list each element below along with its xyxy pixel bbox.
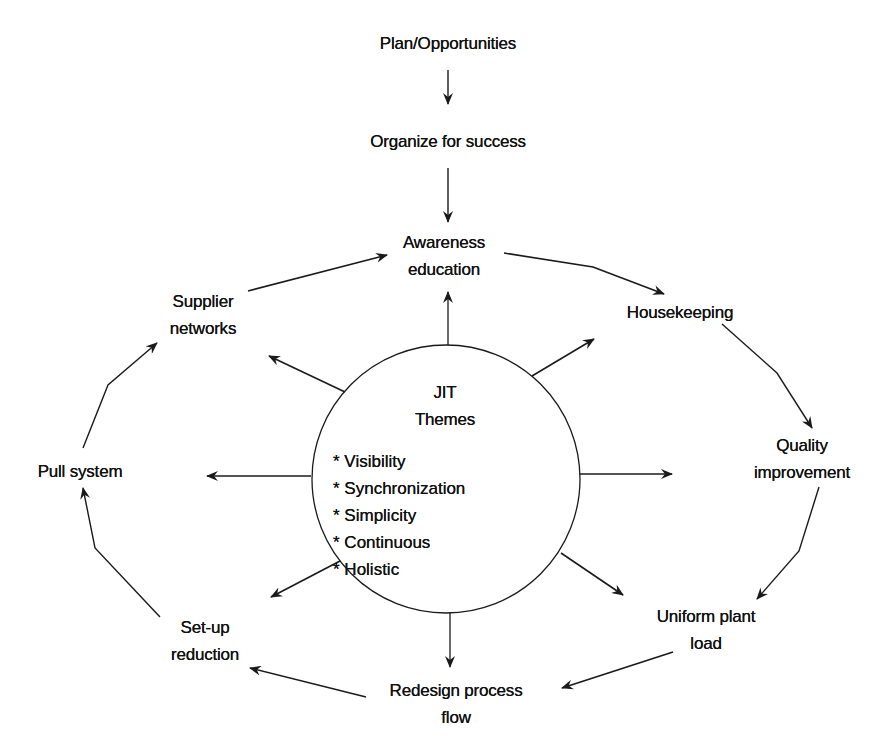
node-awareness-education: Awareness education — [403, 229, 485, 283]
cycle-arrow-awareness-to-housekeeping — [504, 253, 664, 294]
cycle-arrow-housekeeping-to-quality — [722, 324, 812, 428]
node-awareness-line2: education — [403, 256, 485, 283]
themes-list: * Visibility * Synchronization * Simplic… — [333, 448, 465, 583]
node-supplier-line1: Supplier — [170, 288, 236, 315]
theme-holistic: Holistic — [344, 560, 399, 579]
node-redesign-process-flow: Redesign process flow — [390, 677, 523, 731]
center-title-line2: Themes — [415, 406, 475, 433]
node-redesign-line2: flow — [390, 704, 523, 731]
theme-item: * Continuous — [333, 529, 465, 556]
radial-arrow-down-right — [561, 553, 623, 595]
node-quality-line2: improvement — [754, 459, 850, 486]
bullet-asterisk-icon: * — [333, 479, 340, 498]
node-organize-for-success: Organize for success — [370, 128, 526, 155]
cycle-arrow-supplier-to-awareness — [248, 255, 387, 291]
theme-continuous: Continuous — [344, 533, 430, 552]
node-housekeeping: Housekeeping — [627, 299, 733, 326]
node-supplier-networks: Supplier networks — [170, 288, 236, 342]
node-plan-opportunities-text: Plan/Opportunities — [380, 30, 516, 57]
bullet-asterisk-icon: * — [333, 506, 340, 525]
node-supplier-line2: networks — [170, 315, 236, 342]
radial-arrow-up-right — [532, 339, 594, 376]
node-quality-line1: Quality — [754, 432, 850, 459]
node-uniform-plant-load: Uniform plant load — [657, 603, 756, 657]
theme-visibility: Visibility — [344, 452, 405, 471]
bullet-asterisk-icon: * — [333, 452, 340, 471]
cycle-arrow-pull-to-supplier — [83, 343, 157, 448]
cycle-arrow-setup-to-pull — [83, 488, 160, 617]
bullet-asterisk-icon: * — [333, 533, 340, 552]
node-pull-line1: Pull system — [38, 458, 123, 485]
theme-item: * Synchronization — [333, 475, 465, 502]
bullet-asterisk-icon: * — [333, 560, 340, 579]
node-housekeeping-line1: Housekeeping — [627, 299, 733, 326]
node-awareness-line1: Awareness — [403, 229, 485, 256]
node-plan-opportunities: Plan/Opportunities — [380, 30, 516, 57]
theme-item: * Holistic — [333, 556, 465, 583]
theme-simplicity: Simplicity — [344, 506, 416, 525]
theme-item: * Visibility — [333, 448, 465, 475]
node-setup-line1: Set-up — [171, 614, 239, 641]
radial-arrow-up-left — [269, 356, 345, 392]
center-title-line1: JIT — [415, 379, 475, 406]
node-pull-system: Pull system — [38, 458, 123, 485]
node-setup-line2: reduction — [171, 641, 239, 668]
cycle-arrow-quality-to-uniform — [757, 487, 819, 599]
cycle-arrow-redesign-to-setup — [250, 668, 366, 697]
theme-item: * Simplicity — [333, 502, 465, 529]
node-quality-improvement: Quality improvement — [754, 432, 850, 486]
node-organize-text: Organize for success — [370, 128, 526, 155]
radial-arrow-down-left — [271, 561, 340, 597]
theme-synchronization: Synchronization — [344, 479, 465, 498]
center-title: JIT Themes — [415, 379, 475, 433]
node-uniform-line1: Uniform plant — [657, 603, 756, 630]
node-redesign-line1: Redesign process — [390, 677, 523, 704]
node-uniform-line2: load — [657, 630, 756, 657]
node-setup-reduction: Set-up reduction — [171, 614, 239, 668]
cycle-arrow-uniform-to-redesign — [562, 652, 673, 688]
